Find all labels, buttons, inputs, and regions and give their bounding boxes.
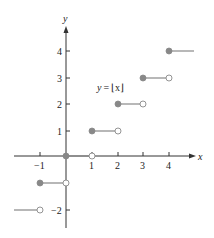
x-axis-label: x [197, 151, 203, 162]
closed-point-3-3 [140, 75, 146, 81]
x-tick-label-2: 2 [115, 160, 120, 171]
function-label: y=⌊x⌋ [96, 82, 124, 93]
function-label-floor: ⌊x⌋ [111, 82, 124, 93]
open-point-2-1 [115, 128, 121, 134]
y-tick-label-3: 3 [57, 73, 62, 84]
closed-point-2-2 [115, 101, 121, 107]
open-point-3-2 [140, 101, 146, 107]
closed-point-1-1 [89, 128, 95, 134]
step-series [14, 48, 194, 213]
x-axis-arrow-icon [189, 154, 196, 159]
open-point-m1-m2 [37, 207, 43, 213]
y-tick-label-4: 4 [57, 46, 62, 57]
y-tick-label-2: 2 [57, 99, 62, 110]
step-function-chart: x y −1 1 2 3 4 4 3 2 1 −2 y=⌊x⌋ [0, 0, 214, 238]
closed-point-4-4 [166, 48, 172, 54]
function-label-y: y [96, 82, 102, 93]
closed-point-m1-m1 [37, 180, 43, 186]
x-tick-label-4: 4 [166, 160, 171, 171]
open-point-0-m1 [63, 180, 69, 186]
function-label-eq: = [103, 82, 109, 93]
x-tick-label-m1: −1 [34, 160, 45, 171]
y-tick-label-m2: −2 [51, 205, 62, 216]
closed-point-0-0 [63, 153, 69, 159]
x-tick-label-3: 3 [140, 160, 145, 171]
y-axis-arrow-icon [64, 26, 69, 33]
x-tick-label-1: 1 [89, 160, 94, 171]
open-point-4-3 [166, 75, 172, 81]
y-tick-label-1: 1 [57, 126, 62, 137]
open-point-1-0 [89, 153, 95, 159]
y-axis-label: y [62, 13, 68, 24]
